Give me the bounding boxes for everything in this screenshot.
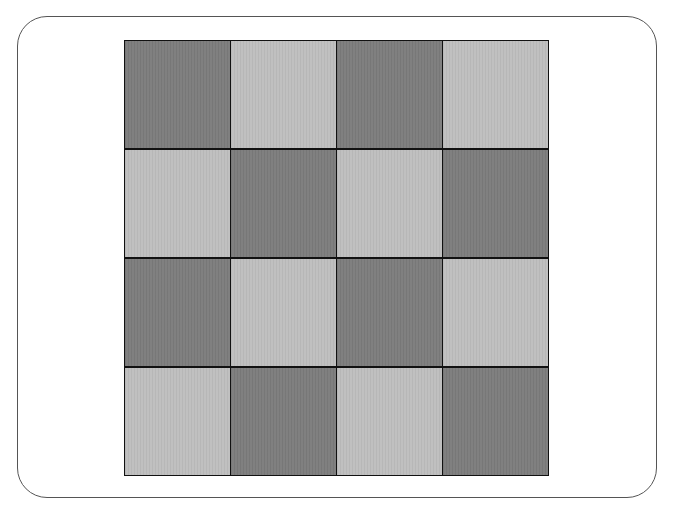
board-cell-dark <box>443 150 548 257</box>
board-cell-light <box>337 368 442 475</box>
board-cell-light <box>125 368 230 475</box>
board-cell-dark <box>337 259 442 366</box>
board-cell-dark <box>231 150 336 257</box>
board-cell-dark <box>443 368 548 475</box>
board-cell-dark <box>125 41 230 148</box>
board-cell-light <box>443 259 548 366</box>
board-cell-light <box>125 150 230 257</box>
board-cell-dark <box>231 368 336 475</box>
board-cell-light <box>443 41 548 148</box>
board-cell-light <box>231 259 336 366</box>
board-cell-dark <box>125 259 230 366</box>
board-cell-dark <box>337 41 442 148</box>
board-cell-light <box>231 41 336 148</box>
board-cell-light <box>337 150 442 257</box>
checkerboard-grid <box>124 40 549 476</box>
